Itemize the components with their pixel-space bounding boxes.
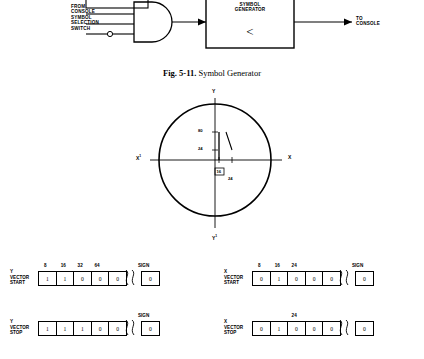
bit-weight-header: 24: [292, 313, 297, 318]
register-name-line: STOP: [10, 330, 29, 336]
bit-cell[interactable]: 0: [92, 322, 110, 335]
bit-cell[interactable]: 1: [39, 272, 57, 285]
register-name: YVECTORSTART: [10, 269, 29, 286]
sign-header: SIGN: [138, 263, 149, 268]
tick-label-x-24: 24: [228, 176, 233, 181]
bit-weight-header: 16: [61, 263, 66, 268]
bit-register[interactable]: 11100: [38, 321, 127, 336]
bit-weight-header: 32: [78, 263, 83, 268]
output-label: TO CONSOLE: [356, 16, 396, 27]
bit-cell[interactable]: 0: [288, 272, 306, 285]
bit-register[interactable]: 01000: [252, 321, 341, 336]
bit-cell[interactable]: 0: [253, 272, 271, 285]
bit-cell[interactable]: 0: [92, 272, 110, 285]
bit-weight-header: 16: [275, 263, 280, 268]
axis-label-x-left: X1: [136, 154, 141, 161]
figure-title: Symbol Generator: [198, 68, 261, 78]
bit-cell[interactable]: 0: [306, 272, 324, 285]
input-label-line-4: SELECTION: [71, 20, 101, 25]
register-name: XVECTORSTOP: [224, 319, 243, 336]
register-name: XVECTORSTART: [224, 269, 243, 286]
axis-label-y-top: Y: [212, 88, 215, 94]
break-symbol: [337, 270, 351, 286]
bit-cell[interactable]: 1: [57, 322, 75, 335]
figure-number: Fig. 5-11.: [163, 68, 196, 78]
bit-cell[interactable]: 0: [288, 322, 306, 335]
axis-label-x-right: X: [288, 154, 291, 160]
bit-weight-header: 24: [292, 263, 297, 268]
bit-cell[interactable]: 1: [271, 272, 289, 285]
sign-bit-cell[interactable]: 0: [141, 321, 160, 336]
bit-weight-header: 64: [94, 263, 99, 268]
output-label-line-2: CONSOLE: [356, 21, 396, 26]
bit-cell[interactable]: 1: [39, 322, 57, 335]
bit-register[interactable]: 01000: [252, 271, 341, 286]
register-name-line: STOP: [224, 330, 243, 336]
break-symbol: [123, 320, 137, 336]
box-label-line-2: GENERATOR: [206, 7, 294, 12]
break-symbol: [123, 270, 137, 286]
box-glyph: <: [206, 24, 294, 40]
sign-bit-cell[interactable]: 0: [355, 271, 374, 286]
sign-bit-cell[interactable]: 0: [355, 321, 374, 336]
block-diagram: FROM CONSOLE SYMBOL SELECTION SWITCH SYM…: [0, 0, 424, 62]
bit-cell[interactable]: 1: [74, 322, 92, 335]
tick-label-y-80: 80: [198, 128, 203, 133]
sign-header: SIGN: [352, 263, 363, 268]
break-symbol: [337, 320, 351, 336]
input-source-label: FROM CONSOLE SYMBOL SELECTION SWITCH: [71, 4, 101, 31]
tick-label-x-16: 16: [217, 169, 222, 174]
bit-cell[interactable]: 1: [271, 322, 289, 335]
input-label-line-5: SWITCH: [71, 26, 101, 31]
bit-cell[interactable]: 0: [306, 322, 324, 335]
bit-weight-header: 8: [258, 263, 261, 268]
register-name-line: START: [10, 280, 29, 286]
register-name: YVECTORSTOP: [10, 319, 29, 336]
symbol-generator-box-label: SYMBOL GENERATOR: [206, 2, 294, 13]
bit-register[interactable]: 11000: [38, 271, 127, 286]
figure-caption: Fig. 5-11. Symbol Generator: [0, 68, 424, 78]
bit-cell[interactable]: 1: [57, 272, 75, 285]
scope-display: Y Y1 X1 X 80 24 16 24: [120, 88, 310, 246]
sign-header: SIGN: [138, 313, 149, 318]
bit-weight-header: 8: [44, 263, 47, 268]
sign-bit-cell[interactable]: 0: [141, 271, 160, 286]
axis-label-y-bottom: Y1: [212, 234, 217, 241]
bit-cell[interactable]: 0: [74, 272, 92, 285]
tick-label-y-24: 24: [198, 146, 203, 151]
bit-cell[interactable]: 0: [253, 322, 271, 335]
register-name-line: START: [224, 280, 243, 286]
